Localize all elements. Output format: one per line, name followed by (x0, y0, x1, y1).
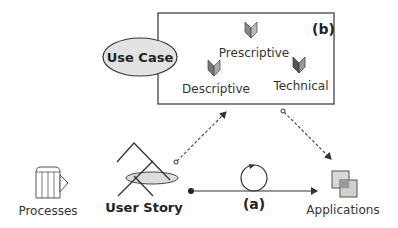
process-icon (36, 167, 68, 198)
use-case-label: Use Case (107, 50, 174, 65)
dashed-arrow-to-knowledge (174, 112, 226, 164)
technical-label: Technical (272, 79, 328, 93)
user-story-icon (117, 143, 178, 196)
flow-a-label: (a) (243, 196, 265, 212)
diagram-canvas: (b) Prescriptive Descriptive Technical U… (0, 0, 398, 228)
descriptive-label: Descriptive (182, 82, 250, 96)
dashed-arrow-to-applications (281, 109, 331, 159)
use-case-node: Use Case (103, 38, 177, 76)
prescriptive-label: Prescriptive (219, 46, 289, 60)
processes-label: Processes (18, 204, 77, 218)
user-story-label: User Story (105, 200, 183, 215)
applications-icon (332, 171, 357, 197)
box-b-label: (b) (312, 21, 335, 37)
knowledge-box-b: (b) Prescriptive Descriptive Technical (158, 13, 335, 104)
cycle-icon (241, 164, 267, 191)
applications-label: Applications (306, 203, 379, 217)
